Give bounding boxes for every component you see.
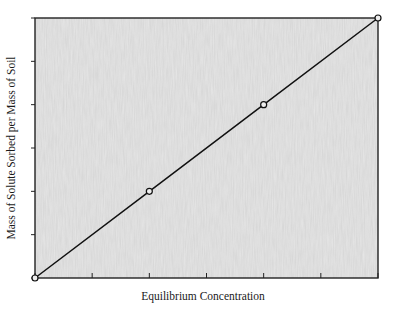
data-point-marker [32,275,38,281]
data-point-marker [146,188,152,194]
data-point-marker [261,102,267,108]
x-axis-label: Equilibrium Concentration [141,290,265,303]
chart: Equilibrium Concentration Mass of Solute… [0,0,396,310]
y-axis-label: Mass of Solute Sorbed per Mass of Soil [5,56,18,239]
data-point-marker [375,15,381,21]
